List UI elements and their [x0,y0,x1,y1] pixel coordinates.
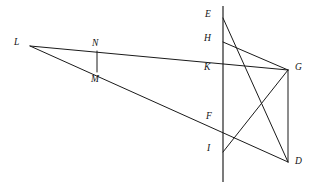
vertex-label-f: F [206,112,212,122]
vertex-label-d: D [295,157,302,167]
vertex-label-k: K [204,63,210,73]
vertex-label-m: M [91,75,99,85]
vertex-label-i: I [207,144,210,154]
vertex-label-h: H [204,34,211,44]
vertex-label-e: E [205,10,211,20]
geometry-diagram: EHKFIGDLNM [0,0,316,188]
vertex-label-n: N [92,39,98,49]
segment-HG [223,42,288,70]
vertex-label-g: G [295,63,302,73]
segment-LG [30,46,288,70]
vertex-label-l: L [14,38,19,48]
segment-LD [30,46,288,162]
diagram-canvas [0,0,316,188]
